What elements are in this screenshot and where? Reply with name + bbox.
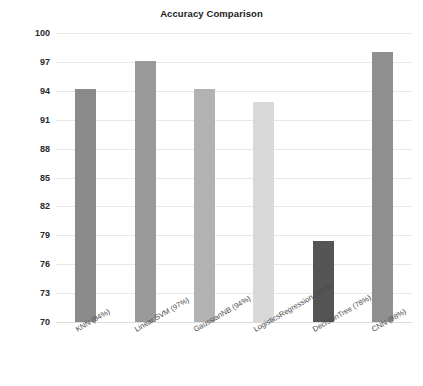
bar [135,61,156,322]
gridline [56,91,412,92]
bar [372,52,393,322]
y-axis-tick-label: 100 [14,28,50,38]
chart-title: Accuracy Comparison [0,8,423,19]
plot-area [56,33,412,322]
y-axis-tick-label: 91 [14,115,50,125]
y-axis-tick-label: 79 [14,230,50,240]
y-axis-tick-label: 88 [14,144,50,154]
bar [194,89,215,322]
y-axis-tick-label: 94 [14,86,50,96]
accuracy-comparison-chart: Accuracy Comparison 10097949188858279767… [0,0,423,386]
gridline [56,322,412,323]
gridline [56,62,412,63]
y-axis-tick-label: 70 [14,317,50,327]
gridline [56,33,412,34]
y-axis-tick-label: 76 [14,259,50,269]
gridline [56,120,412,121]
y-axis-tick-label: 73 [14,288,50,298]
y-axis-tick-label: 97 [14,57,50,67]
y-axis-tick-label: 82 [14,201,50,211]
gridline [56,206,412,207]
gridline [56,149,412,150]
bar [313,241,334,322]
bar [253,102,274,322]
gridline [56,264,412,265]
y-axis-tick-label: 85 [14,173,50,183]
gridline [56,235,412,236]
gridline [56,293,412,294]
x-axis: KNN (94%)Linear SVM (97%)GaussianNB (94%… [56,326,412,386]
bar [75,89,96,322]
gridline [56,178,412,179]
